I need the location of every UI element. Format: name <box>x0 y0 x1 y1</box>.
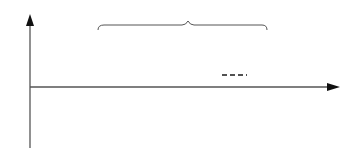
pulse-brace <box>98 21 267 30</box>
y-axis-arrow-icon <box>26 14 34 26</box>
x-axis-arrow-icon <box>327 83 340 91</box>
pulse-diagram <box>0 0 354 152</box>
